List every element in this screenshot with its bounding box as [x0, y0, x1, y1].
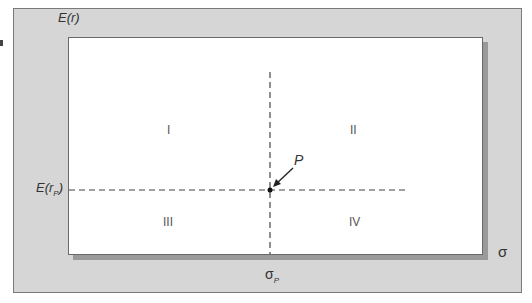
- y-point-label: E(rP): [36, 180, 63, 195]
- x-point-main: σ: [265, 266, 274, 282]
- quadrant-3-label: III: [163, 215, 173, 229]
- point-p-label: P: [294, 152, 303, 168]
- x-axis-label: σ: [498, 243, 507, 260]
- y-point-main: E(r: [36, 180, 53, 195]
- guide-lines: [0, 0, 532, 303]
- quadrant-1-label: I: [167, 123, 170, 137]
- y-point-close: ): [59, 180, 63, 195]
- y-point-sub: P: [53, 189, 58, 198]
- point-p-dot: [268, 188, 273, 193]
- quadrant-2-label: II: [350, 123, 357, 137]
- quadrant-4-label: IV: [349, 215, 360, 229]
- x-point-sub: P: [274, 276, 279, 285]
- y-axis-label: E(r): [58, 10, 80, 25]
- x-point-label: σP: [265, 266, 279, 282]
